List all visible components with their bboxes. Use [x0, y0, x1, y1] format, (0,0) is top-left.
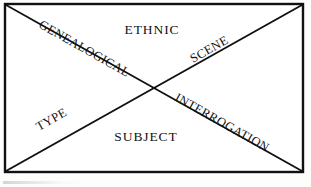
label-subject: SUBJECT: [114, 129, 177, 144]
diagram-svg: ETHNIC SUBJECT GENEALOGICAL SCENE TYPE I…: [0, 0, 311, 187]
diagram-canvas: ETHNIC SUBJECT GENEALOGICAL SCENE TYPE I…: [0, 0, 311, 187]
label-ethnic: ETHNIC: [125, 22, 180, 37]
